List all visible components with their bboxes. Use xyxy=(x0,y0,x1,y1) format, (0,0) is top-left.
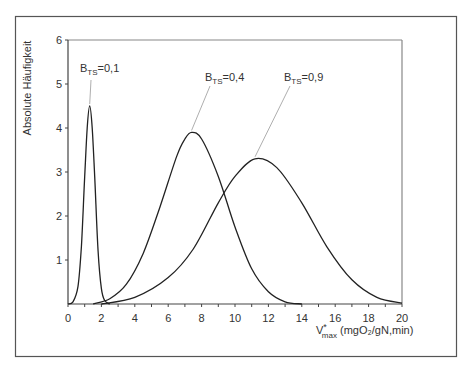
x-tick-label: 6 xyxy=(165,312,171,324)
series-annotation-label: BTS=0,4 xyxy=(205,71,244,86)
series-line-2 xyxy=(93,132,302,304)
y-tick-label: 5 xyxy=(56,78,62,90)
series-curves xyxy=(68,106,402,304)
y-tick-label: 1 xyxy=(56,254,62,266)
y-axis-label: Absolute Häufigkeit xyxy=(21,41,33,136)
x-axis-label: V*max (mgO₂/gN,min) xyxy=(316,322,413,340)
x-axis-label-text: V*max (mgO₂/gN,min) xyxy=(316,322,413,340)
y-tick-label: 6 xyxy=(56,34,62,46)
x-tick-label: 8 xyxy=(199,312,205,324)
x-tick-label: 20 xyxy=(396,312,408,324)
series-annotation-label: BTS=0,1 xyxy=(80,62,119,77)
series-line-1 xyxy=(68,106,110,304)
series-annotations: BTS=0,1BTS=0,4BTS=0,9 xyxy=(80,62,323,157)
chart-figure: 02468101214161820123456 BTS=0,1BTS=0,4BT… xyxy=(0,0,470,373)
x-tick-label: 10 xyxy=(229,312,241,324)
y-tick-label: 4 xyxy=(56,122,62,134)
y-tick-label: 3 xyxy=(56,166,62,178)
y-tick-label: 2 xyxy=(56,210,62,222)
x-tick-label: 18 xyxy=(362,312,374,324)
annotation-leader-line xyxy=(90,80,91,104)
series-line-3 xyxy=(101,158,402,304)
x-tick-label: 14 xyxy=(296,312,308,324)
annotation-leader-line xyxy=(192,86,210,130)
x-tick-label: 16 xyxy=(329,312,341,324)
x-tick-label: 4 xyxy=(132,312,138,324)
x-tick-label: 0 xyxy=(65,312,71,324)
x-tick-label: 2 xyxy=(98,312,104,324)
series-annotation-label: BTS=0,9 xyxy=(284,71,323,86)
annotation-leader-line xyxy=(255,86,290,157)
chart-canvas: 02468101214161820123456 BTS=0,1BTS=0,4BT… xyxy=(0,0,470,373)
x-tick-label: 12 xyxy=(262,312,274,324)
